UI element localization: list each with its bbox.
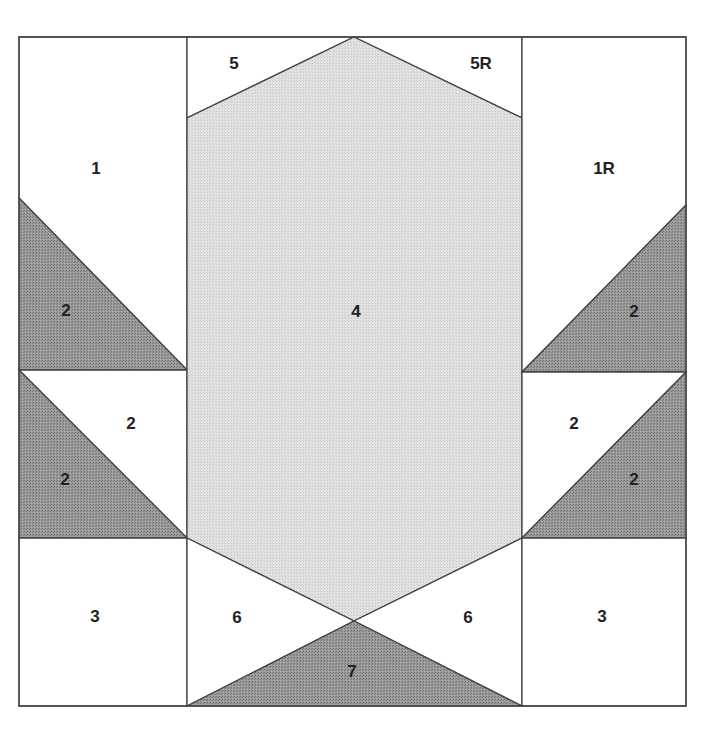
piece-label-p5r: 5R bbox=[470, 54, 492, 73]
quilt-piece-p3l bbox=[19, 538, 187, 706]
piece-label-p5: 5 bbox=[229, 54, 238, 73]
piece-label-p2c: 2 bbox=[60, 470, 69, 489]
piece-label-p2f: 2 bbox=[629, 470, 638, 489]
quilt-pieces bbox=[19, 37, 686, 706]
piece-label-p6r: 6 bbox=[463, 608, 472, 627]
piece-label-p6l: 6 bbox=[232, 608, 241, 627]
piece-label-p2a: 2 bbox=[61, 301, 70, 320]
piece-label-p1r: 1R bbox=[593, 159, 615, 178]
piece-label-p7: 7 bbox=[347, 662, 356, 681]
piece-label-p2b: 2 bbox=[126, 414, 135, 433]
piece-label-p3l: 3 bbox=[90, 607, 99, 626]
piece-label-p2e: 2 bbox=[569, 414, 578, 433]
quilt-block-diagram: 1222355R46671R2223 bbox=[0, 0, 724, 746]
piece-label-p1: 1 bbox=[91, 159, 100, 178]
piece-label-p4: 4 bbox=[351, 302, 361, 321]
piece-label-p2d: 2 bbox=[629, 302, 638, 321]
piece-label-p3r: 3 bbox=[597, 607, 606, 626]
quilt-piece-p4 bbox=[187, 37, 522, 621]
